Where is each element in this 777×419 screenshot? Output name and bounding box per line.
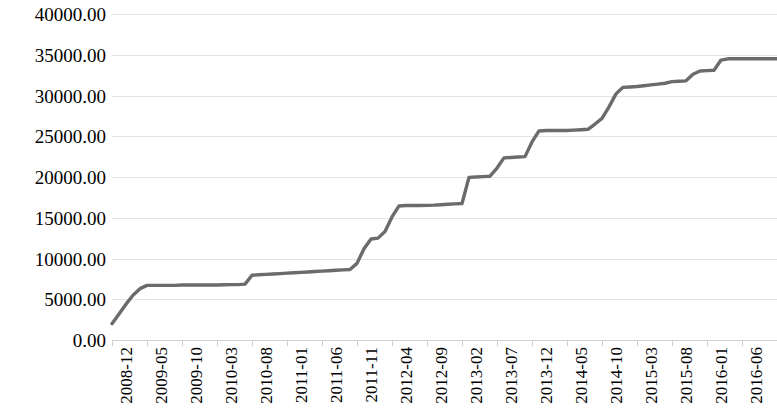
y-tick-label: 0.00 — [0, 331, 106, 350]
x-tick — [112, 341, 113, 346]
x-tick — [532, 341, 533, 346]
x-tick-label: 2013-12 — [538, 347, 555, 404]
x-tick-label: 2009-05 — [153, 347, 170, 404]
x-tick-label: 2015-03 — [643, 347, 660, 404]
x-tick — [357, 341, 358, 346]
x-tick — [217, 341, 218, 346]
x-tick — [392, 341, 393, 346]
series-path — [112, 59, 777, 324]
y-tick-label: 25000.00 — [0, 127, 106, 146]
x-tick — [672, 341, 673, 346]
x-tick — [462, 341, 463, 346]
x-tick-label: 2011-06 — [328, 347, 345, 403]
x-tick-label: 2013-02 — [468, 347, 485, 404]
y-tick-label: 35000.00 — [0, 45, 106, 64]
x-tick — [567, 341, 568, 346]
plot-area — [112, 0, 777, 341]
x-tick — [252, 341, 253, 346]
x-tick-label: 2011-11 — [363, 347, 380, 402]
x-tick — [742, 341, 743, 346]
x-axis: 2008-122009-052009-102010-032010-082011-… — [112, 341, 777, 419]
y-tick-label: 5000.00 — [0, 290, 106, 309]
x-tick-label: 2010-08 — [258, 347, 275, 404]
y-axis: 0.005000.0010000.0015000.0020000.0025000… — [0, 0, 106, 345]
x-tick-label: 2014-10 — [608, 347, 625, 404]
x-tick — [147, 341, 148, 346]
x-tick-label: 2016-01 — [713, 347, 730, 404]
x-tick-label: 2008-12 — [118, 347, 135, 404]
x-tick — [427, 341, 428, 346]
x-tick — [322, 341, 323, 346]
x-tick-label: 2009-10 — [188, 347, 205, 404]
x-tick-label: 2011-01 — [293, 347, 310, 403]
x-tick — [707, 341, 708, 346]
y-tick-label: 10000.00 — [0, 249, 106, 268]
x-tick-label: 2012-04 — [398, 347, 415, 404]
x-tick — [287, 341, 288, 346]
y-tick-label: 40000.00 — [0, 5, 106, 24]
x-tick-label: 2014-05 — [573, 347, 590, 404]
y-tick-label: 30000.00 — [0, 86, 106, 105]
x-tick — [497, 341, 498, 346]
x-tick-label: 2012-09 — [433, 347, 450, 404]
y-tick-label: 15000.00 — [0, 208, 106, 227]
x-tick-label: 2016-06 — [748, 347, 765, 404]
x-tick-label: 2010-03 — [223, 347, 240, 404]
x-tick-label: 2013-07 — [503, 347, 520, 404]
line-chart: 0.005000.0010000.0015000.0020000.0025000… — [0, 0, 777, 419]
x-tick — [637, 341, 638, 346]
x-tick — [602, 341, 603, 346]
series-line-cumulative — [112, 0, 777, 341]
y-tick-label: 20000.00 — [0, 168, 106, 187]
x-tick — [182, 341, 183, 346]
x-tick-label: 2015-08 — [678, 347, 695, 404]
